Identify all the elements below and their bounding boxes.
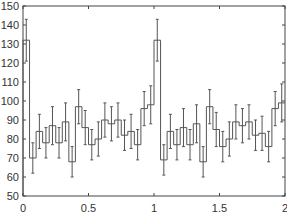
- histogram-chart: 5060708090100110120130140150 00.511.52: [0, 0, 287, 217]
- y-tick-label: 100: [1, 95, 19, 107]
- y-tick-label: 70: [7, 152, 19, 164]
- x-tick-label: 1: [151, 202, 157, 214]
- y-tick-label: 130: [1, 38, 19, 50]
- y-tick-label: 120: [1, 57, 19, 69]
- y-axis: 5060708090100110120130140150: [1, 0, 285, 202]
- y-tick-label: 60: [7, 171, 19, 183]
- y-tick-label: 50: [7, 190, 19, 202]
- x-tick-label: 2: [282, 202, 287, 214]
- y-tick-label: 110: [1, 76, 19, 88]
- histogram-steps: [23, 40, 285, 196]
- y-tick-label: 150: [1, 0, 19, 12]
- y-tick-label: 140: [1, 19, 19, 31]
- x-axis: 00.511.52: [20, 6, 287, 214]
- x-tick-label: 1.5: [212, 202, 227, 214]
- x-tick-label: 0.5: [81, 202, 96, 214]
- x-tick-label: 0: [20, 202, 26, 214]
- y-tick-label: 90: [7, 114, 19, 126]
- y-tick-label: 80: [7, 133, 19, 145]
- histogram-series: [23, 19, 285, 196]
